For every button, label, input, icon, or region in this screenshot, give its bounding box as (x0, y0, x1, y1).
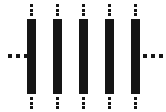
ellipsis-dot (108, 4, 111, 7)
ellipsis-dot (82, 9, 85, 12)
vertical-ellipsis-icon-top-4 (105, 4, 114, 16)
vertical-ellipsis-icon-top-5 (131, 4, 140, 16)
lattice-bar-4 (105, 19, 114, 94)
ellipsis-dot (30, 13, 33, 16)
vertical-ellipsis-icon-top-1 (27, 4, 36, 16)
periodic-bar-lattice-figure (0, 0, 166, 112)
ellipsis-dot (108, 13, 111, 16)
ellipsis-dot (82, 102, 85, 105)
lattice-bar-5 (131, 19, 140, 94)
ellipsis-dot (30, 9, 33, 12)
ellipsis-dot (134, 4, 137, 7)
ellipsis-dot (82, 13, 85, 16)
ellipsis-dot (8, 54, 12, 58)
vertical-ellipsis-icon-top-2 (53, 4, 62, 16)
ellipsis-dot (143, 54, 147, 58)
vertical-ellipsis-icon-bottom-1 (27, 97, 36, 109)
ellipsis-dot (108, 9, 111, 12)
ellipsis-dot (30, 106, 33, 109)
lattice-bar-2 (53, 19, 62, 94)
ellipsis-dot (56, 4, 59, 7)
ellipsis-dot (108, 106, 111, 109)
ellipsis-dot (30, 102, 33, 105)
horizontal-ellipsis-right (143, 54, 163, 58)
ellipsis-dot (56, 106, 59, 109)
ellipsis-dot (82, 106, 85, 109)
ellipsis-dot (108, 97, 111, 100)
ellipsis-dot (30, 97, 33, 100)
lattice-bar-1 (27, 19, 36, 94)
vertical-ellipsis-icon-bottom-2 (53, 97, 62, 109)
ellipsis-dot (134, 102, 137, 105)
horizontal-ellipsis-left (8, 54, 28, 58)
ellipsis-dot (56, 13, 59, 16)
ellipsis-dot (30, 4, 33, 7)
ellipsis-dot (56, 102, 59, 105)
ellipsis-dot (151, 54, 155, 58)
ellipsis-dot (134, 97, 137, 100)
vertical-ellipsis-icon-bottom-5 (131, 97, 140, 109)
ellipsis-dot (134, 9, 137, 12)
ellipsis-dot (56, 9, 59, 12)
ellipsis-dot (56, 97, 59, 100)
ellipsis-dot (82, 97, 85, 100)
ellipsis-dot (134, 13, 137, 16)
ellipsis-dot (108, 102, 111, 105)
ellipsis-dot (16, 54, 20, 58)
vertical-ellipsis-icon-bottom-4 (105, 97, 114, 109)
vertical-ellipsis-icon-bottom-3 (79, 97, 88, 109)
vertical-ellipsis-icon-top-3 (79, 4, 88, 16)
ellipsis-dot (82, 4, 85, 7)
ellipsis-dot (134, 106, 137, 109)
ellipsis-dot (159, 54, 163, 58)
lattice-bar-3 (79, 19, 88, 94)
